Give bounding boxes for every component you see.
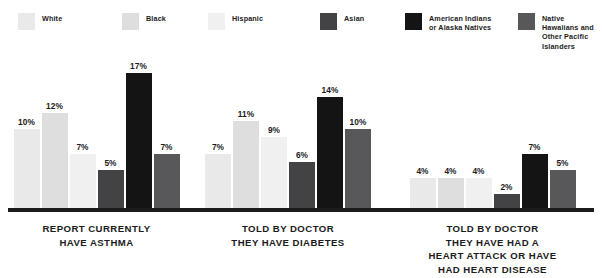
bar-value-label: 5%: [556, 158, 568, 168]
bar-value-label: 7%: [212, 142, 224, 152]
chart-plot-area: 10%12%7%5%17%7%7%11%9%6%14%10%4%4%4%2%7%…: [0, 52, 602, 210]
legend-swatch-4: [320, 13, 337, 30]
bar-column[interactable]: 11%: [233, 52, 259, 210]
bar[interactable]: [550, 170, 576, 210]
legend-item[interactable]: White: [18, 12, 118, 30]
bar-column[interactable]: 5%: [98, 52, 124, 210]
bar-column[interactable]: 7%: [205, 52, 231, 210]
bar-column[interactable]: 12%: [42, 52, 68, 210]
chart-legend: WhiteBlackHispanicAsianAmerican Indians …: [0, 12, 602, 44]
bar-group: 4%4%4%2%7%5%: [383, 52, 602, 210]
bar-group: 10%12%7%5%17%7%: [0, 52, 193, 210]
bar-column[interactable]: 10%: [14, 52, 40, 210]
legend-label: American Indians or Alaska Natives: [429, 12, 491, 32]
bar-value-label: 4%: [444, 166, 456, 176]
bar[interactable]: [410, 178, 436, 210]
bar[interactable]: [345, 129, 371, 210]
bar-value-label: 7%: [528, 142, 540, 152]
legend-item[interactable]: Hispanic: [208, 12, 316, 30]
bar-column[interactable]: 17%: [126, 52, 152, 210]
bar[interactable]: [14, 129, 40, 210]
bar-value-label: 12%: [46, 101, 63, 111]
bar-column[interactable]: 6%: [289, 52, 315, 210]
bar[interactable]: [261, 137, 287, 210]
legend-label: Hispanic: [232, 12, 263, 23]
bar[interactable]: [42, 113, 68, 210]
legend-swatch-1: [18, 13, 35, 30]
bar[interactable]: [126, 73, 152, 210]
legend-swatch-2: [122, 13, 139, 30]
bar-value-label: 11%: [238, 109, 254, 119]
bar[interactable]: [317, 97, 343, 210]
bar[interactable]: [205, 154, 231, 210]
axis-baseline: [8, 208, 594, 212]
bar-column[interactable]: 10%: [345, 52, 371, 210]
bar[interactable]: [70, 154, 96, 210]
bar-column[interactable]: 7%: [154, 52, 180, 210]
bar-value-label: 10%: [18, 117, 35, 127]
bar[interactable]: [233, 121, 259, 210]
legend-item[interactable]: American Indians or Alaska Natives: [405, 12, 515, 32]
bar-value-label: 10%: [350, 117, 367, 127]
bar-column[interactable]: 2%: [494, 52, 520, 210]
bar-column[interactable]: 9%: [261, 52, 287, 210]
legend-item[interactable]: Asian: [320, 12, 401, 30]
bar[interactable]: [289, 162, 315, 210]
legend-item[interactable]: Black: [122, 12, 204, 30]
legend-label: Native Hawaiians and Other Pacific Islan…: [542, 12, 602, 51]
bar-column[interactable]: 5%: [550, 52, 576, 210]
legend-label: White: [42, 12, 62, 23]
bar-column[interactable]: 4%: [410, 52, 436, 210]
bar-value-label: 4%: [472, 166, 484, 176]
category-label: REPORT CURRENTLY HAVE ASTHMA: [0, 222, 193, 276]
bar-column[interactable]: 4%: [466, 52, 492, 210]
category-label: TOLD BY DOCTOR THEY HAVE DIABETES: [193, 222, 383, 276]
bar[interactable]: [522, 154, 548, 210]
bar-value-label: 7%: [160, 142, 172, 152]
bar-groups: 10%12%7%5%17%7%7%11%9%6%14%10%4%4%4%2%7%…: [0, 52, 602, 210]
legend-item[interactable]: Native Hawaiians and Other Pacific Islan…: [518, 12, 602, 51]
category-label: TOLD BY DOCTOR THEY HAVE HAD A HEART ATT…: [383, 222, 602, 276]
bar-column[interactable]: 7%: [522, 52, 548, 210]
bar[interactable]: [438, 178, 464, 210]
bar-value-label: 17%: [130, 61, 147, 71]
legend-swatch-5: [405, 13, 422, 30]
legend-label: Black: [146, 12, 166, 23]
bar-value-label: 6%: [296, 150, 308, 160]
bar-value-label: 7%: [76, 142, 88, 152]
bar-column[interactable]: 4%: [438, 52, 464, 210]
bar[interactable]: [154, 154, 180, 210]
legend-label: Asian: [344, 12, 364, 23]
bar-column[interactable]: 14%: [317, 52, 343, 210]
category-labels: REPORT CURRENTLY HAVE ASTHMATOLD BY DOCT…: [0, 222, 602, 276]
legend-swatch-3: [208, 13, 225, 30]
legend-swatch-6: [518, 13, 535, 30]
bar-value-label: 4%: [416, 166, 428, 176]
bar-column[interactable]: 7%: [70, 52, 96, 210]
bar-value-label: 9%: [268, 125, 280, 135]
bar[interactable]: [98, 170, 124, 210]
bar-group: 7%11%9%6%14%10%: [193, 52, 383, 210]
bar-value-label: 5%: [104, 158, 116, 168]
bar[interactable]: [466, 178, 492, 210]
bar-value-label: 2%: [500, 182, 512, 192]
bar-value-label: 14%: [322, 85, 339, 95]
